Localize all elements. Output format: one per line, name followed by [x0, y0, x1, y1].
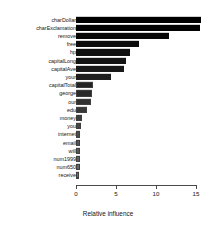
bar-category-label: num650: [57, 164, 76, 170]
bar: [76, 66, 124, 72]
bar-row: you: [0, 122, 216, 130]
bar: [76, 90, 92, 96]
bar-row: email: [0, 139, 216, 147]
bar-row: remove: [0, 32, 216, 40]
bar-row: charDollar: [0, 16, 216, 24]
bar-row: our: [0, 98, 216, 106]
bar-row: money: [0, 114, 216, 122]
bar-category-label: free: [67, 41, 76, 47]
bar-category-label: charDollar: [51, 17, 76, 23]
bar: [76, 41, 139, 47]
bar: [76, 107, 87, 113]
bar: [76, 49, 130, 55]
bar: [76, 17, 201, 23]
bar-category-label: will: [69, 148, 77, 154]
bar-category-label: remove: [58, 33, 76, 39]
bar: [76, 82, 93, 88]
bar-row: num650: [0, 163, 216, 171]
bar-row: receive: [0, 171, 216, 179]
bar: [76, 156, 80, 162]
bar-category-label: num1999: [54, 156, 76, 162]
bar: [76, 99, 91, 105]
bar-category-label: charExclamation: [36, 25, 76, 31]
bar-row: internet: [0, 130, 216, 138]
bar: [76, 74, 111, 80]
bar-row: hp: [0, 48, 216, 56]
bar: [76, 115, 82, 121]
bar-category-label: capitalAve: [51, 66, 76, 72]
plot-area: charDollarcharExclamationremovefreehpcap…: [0, 0, 216, 236]
bar-row: num1999: [0, 155, 216, 163]
bar-row: edu: [0, 106, 216, 114]
bar-row: will: [0, 147, 216, 155]
bar-row: george: [0, 89, 216, 97]
bar: [76, 172, 79, 178]
bar-category-label: you: [67, 123, 76, 129]
bar-row: your: [0, 73, 216, 81]
bar: [76, 25, 200, 31]
relative-influence-bar-chart: charDollarcharExclamationremovefreehpcap…: [0, 0, 216, 236]
bar-row: free: [0, 40, 216, 48]
bar-category-label: your: [66, 74, 77, 80]
x-axis-title: Relative influence: [0, 209, 216, 218]
bar-category-label: edu: [67, 107, 76, 113]
bar-row: capitalTotal: [0, 81, 216, 89]
bar-category-label: email: [63, 140, 76, 146]
bar-category-label: our: [68, 99, 76, 105]
bar: [76, 148, 80, 154]
bar: [76, 123, 81, 129]
bar: [76, 164, 80, 170]
bar: [76, 131, 80, 137]
bar: [76, 140, 80, 146]
bar-row: charExclamation: [0, 24, 216, 32]
bar: [76, 58, 126, 64]
bar-category-label: george: [59, 90, 76, 96]
bar: [76, 33, 169, 39]
bar-category-label: capitalTotal: [49, 82, 76, 88]
bar-row: capitalAve: [0, 65, 216, 73]
bar-category-label: money: [60, 115, 76, 121]
bar-row: capitalLong: [0, 57, 216, 65]
bar-category-label: internet: [58, 131, 76, 137]
bar-category-label: capitalLong: [48, 58, 76, 64]
bar-category-label: receive: [59, 172, 76, 178]
